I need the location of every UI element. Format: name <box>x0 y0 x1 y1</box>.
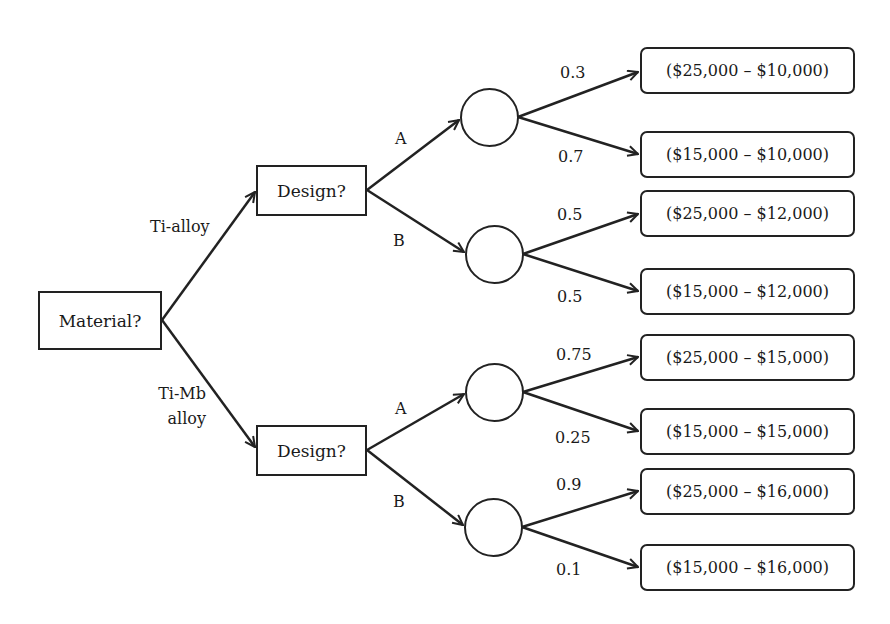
prob-label: 0.5 <box>557 206 582 224</box>
chance-node-1 <box>460 88 519 147</box>
outcome-box: ($15,000 – $10,000) <box>640 131 855 178</box>
branch-label-ti-mb-line1: Ti-Mb <box>148 385 206 403</box>
design-decision-node-bottom: Design? <box>256 425 367 476</box>
branch-label-bottom-a: A <box>395 400 407 418</box>
branch-label-top-a: A <box>395 130 407 148</box>
payoff-label: ($25,000 – $16,000) <box>666 482 829 501</box>
prob-label: 0.7 <box>558 148 583 166</box>
payoff-label: ($25,000 – $12,000) <box>666 204 829 223</box>
edge-ti-alloy <box>162 192 255 320</box>
design-label: Design? <box>277 181 346 201</box>
payoff-label: ($15,000 – $16,000) <box>666 558 829 577</box>
edge-c4-o1 <box>522 491 638 527</box>
branch-label-top-b: B <box>393 232 405 250</box>
payoff-label: ($15,000 – $12,000) <box>666 282 829 301</box>
outcome-box: ($15,000 – $16,000) <box>640 544 855 591</box>
chance-node-2 <box>465 225 524 284</box>
prob-label: 0.9 <box>556 476 581 494</box>
chance-node-3 <box>465 363 524 422</box>
edge-c2-o2 <box>523 254 638 291</box>
outcome-box: ($25,000 – $16,000) <box>640 468 855 515</box>
outcome-box: ($25,000 – $10,000) <box>640 47 855 94</box>
chance-node-4 <box>464 498 523 557</box>
branch-label-bottom-b: B <box>393 493 405 511</box>
prob-label: 0.5 <box>557 288 582 306</box>
edge-bottom-design-a <box>367 394 464 450</box>
root-decision-node: Material? <box>38 291 162 350</box>
design-decision-node-top: Design? <box>256 165 367 216</box>
prob-label: 0.1 <box>556 561 581 579</box>
payoff-label: ($15,000 – $15,000) <box>666 422 829 441</box>
outcome-box: ($25,000 – $12,000) <box>640 190 855 237</box>
outcome-box: ($15,000 – $12,000) <box>640 268 855 315</box>
design-label: Design? <box>277 441 346 461</box>
edge-top-design-b <box>367 190 464 252</box>
root-label: Material? <box>59 311 142 331</box>
outcome-box: ($15,000 – $15,000) <box>640 408 855 455</box>
branch-label-ti-alloy: Ti-alloy <box>150 218 210 236</box>
payoff-label: ($15,000 – $10,000) <box>666 145 829 164</box>
payoff-label: ($25,000 – $10,000) <box>666 61 829 80</box>
prob-label: 0.3 <box>560 64 585 82</box>
prob-label: 0.25 <box>555 429 591 447</box>
payoff-label: ($25,000 – $15,000) <box>666 348 829 367</box>
prob-label: 0.75 <box>556 346 592 364</box>
edge-bottom-design-b <box>367 450 463 525</box>
outcome-box: ($25,000 – $15,000) <box>640 334 855 381</box>
branch-label-ti-mb-line2: alloy <box>148 410 206 428</box>
edge-c3-o2 <box>523 392 638 431</box>
edge-top-design-a <box>367 120 459 190</box>
